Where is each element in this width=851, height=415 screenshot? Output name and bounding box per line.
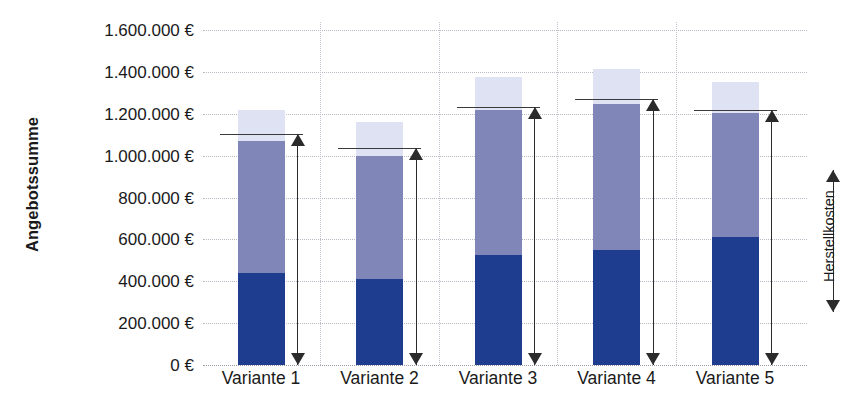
- bar-segment-baunebenkosten[interactable]: [593, 104, 640, 250]
- arrow-shaft: [534, 107, 535, 365]
- bar-segment-baunebenkosten[interactable]: [356, 156, 403, 279]
- arrow-shaft: [416, 148, 417, 365]
- y-tick-label: 600.000 €: [34, 231, 194, 248]
- x-tick-label-3: Variante 3: [439, 368, 558, 389]
- bar-group[interactable]: [712, 82, 759, 365]
- bar-segment-zuschlag[interactable]: [475, 77, 522, 110]
- category-separator: [676, 22, 677, 365]
- legend-label-herstellkosten: Herstellkosten: [821, 171, 837, 301]
- bar-segment-herstellkosten[interactable]: [475, 255, 522, 365]
- arrow-head-down-icon: [528, 353, 542, 365]
- bar-segment-herstellkosten[interactable]: [238, 273, 285, 365]
- arrow-head-up-icon: [409, 148, 423, 160]
- arrow-head-up-icon: [291, 134, 305, 146]
- y-tick-label: 0 €: [34, 357, 194, 374]
- legend: Herstellkosten: [812, 0, 851, 415]
- y-tick-label: 1.600.000 €: [34, 22, 194, 39]
- gridline: [203, 30, 807, 31]
- x-tick-label-2: Variante 2: [320, 368, 439, 389]
- bar-segment-zuschlag[interactable]: [356, 122, 403, 156]
- bar-segment-zuschlag[interactable]: [238, 110, 285, 141]
- y-tick-label: 400.000 €: [34, 273, 194, 290]
- gridline: [203, 365, 807, 366]
- x-tick-label-1: Variante 1: [202, 368, 321, 389]
- arrow-head-down-icon: [826, 300, 840, 312]
- y-tick-label: 1.200.000 €: [34, 105, 194, 122]
- angebotssumme-double-arrow-icon: [409, 148, 423, 365]
- y-axis-tick-labels: 1.600.000 €1.400.000 €1.200.000 €1.000.0…: [34, 0, 194, 415]
- x-tick-label-5: Variante 5: [676, 368, 795, 389]
- bar-segment-herstellkosten[interactable]: [356, 279, 403, 365]
- angebotssumme-double-arrow-icon: [765, 110, 779, 365]
- category-separator: [557, 22, 558, 365]
- plot-area: [203, 0, 807, 415]
- arrow-head-up-icon: [646, 99, 660, 111]
- angebotssumme-double-arrow-icon: [291, 134, 305, 365]
- y-tick-label: 200.000 €: [34, 315, 194, 332]
- angebotssumme-double-arrow-icon: [646, 99, 660, 365]
- arrow-head-down-icon: [646, 353, 660, 365]
- x-tick-label-4: Variante 4: [557, 368, 676, 389]
- bar-segment-baunebenkosten[interactable]: [712, 113, 759, 237]
- bar-group[interactable]: [475, 77, 522, 365]
- bar-segment-herstellkosten[interactable]: [593, 250, 640, 365]
- angebotssumme-double-arrow-icon: [528, 107, 542, 365]
- arrow-head-up-icon: [528, 107, 542, 119]
- bar-segment-baunebenkosten[interactable]: [475, 110, 522, 255]
- arrow-shaft: [297, 134, 298, 365]
- bar-group[interactable]: [593, 69, 640, 365]
- arrow-head-down-icon: [409, 353, 423, 365]
- arrow-head-down-icon: [765, 353, 779, 365]
- arrow-shaft: [653, 99, 654, 365]
- bar-segment-zuschlag[interactable]: [712, 82, 759, 113]
- bar-segment-herstellkosten[interactable]: [712, 237, 759, 365]
- category-separator: [320, 22, 321, 365]
- category-separator: [439, 22, 440, 365]
- chart-figure: Angebotssumme 1.600.000 €1.400.000 €1.20…: [0, 0, 851, 415]
- arrow-head-down-icon: [291, 353, 305, 365]
- y-tick-label: 800.000 €: [34, 189, 194, 206]
- bar-segment-baunebenkosten[interactable]: [238, 141, 285, 273]
- bar-group[interactable]: [238, 110, 285, 365]
- gridline: [203, 72, 807, 73]
- arrow-shaft: [771, 110, 772, 365]
- arrow-head-up-icon: [765, 110, 779, 122]
- y-tick-label: 1.400.000 €: [34, 63, 194, 80]
- bar-group[interactable]: [356, 122, 403, 365]
- y-tick-label: 1.000.000 €: [34, 147, 194, 164]
